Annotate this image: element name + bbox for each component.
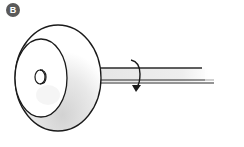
wheel-shaft-illustration (0, 0, 244, 147)
hub (35, 70, 46, 84)
wheel-shaft-figure: B (0, 0, 244, 147)
shaft (100, 67, 244, 83)
wheel (15, 25, 101, 131)
